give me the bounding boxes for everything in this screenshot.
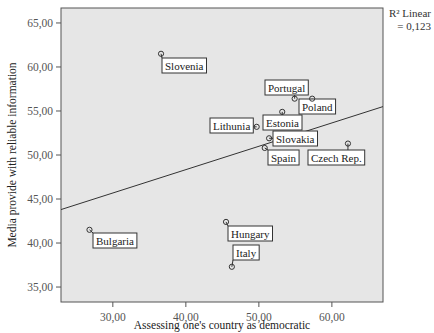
point-label: Poland (302, 101, 333, 113)
y-tick-label: 40,00 (27, 237, 53, 250)
point-label: Portugal (268, 82, 305, 94)
y-tick-label: 60,00 (27, 61, 53, 74)
y-tick-label: 65,00 (27, 17, 53, 30)
x-axis-label: Assessing one's country as democratic (134, 319, 310, 332)
y-tick-label: 35,00 (27, 281, 53, 294)
point-label: Spain (271, 152, 297, 164)
y-axis-label: Media provide with reliable information (6, 62, 19, 247)
data-point-poland: Poland (299, 96, 336, 114)
point-label: Czech Rep. (311, 152, 362, 164)
point-label: Hungary (231, 228, 270, 240)
r-squared-value: = 0,123 (397, 20, 431, 32)
point-label: Italy (236, 247, 257, 259)
x-tick-label: 60,00 (319, 311, 345, 324)
y-tick-label: 50,00 (27, 149, 53, 162)
y-axis: 35,0040,0045,0050,0055,0060,0065,00 (27, 17, 61, 294)
y-tick-label: 55,00 (27, 105, 53, 118)
point-label: Lithunia (213, 120, 250, 132)
data-point-slovakia: Slovakia (266, 131, 317, 146)
point-label: Slovakia (276, 133, 315, 145)
point-label: Estonia (266, 117, 299, 129)
y-tick-label: 45,00 (27, 193, 53, 206)
data-point-lithunia: Lithunia (210, 118, 259, 133)
x-tick-label: 30,00 (100, 311, 126, 324)
point-label: Slovenia (165, 60, 204, 72)
point-label: Bulgaria (96, 235, 134, 247)
scatter-chart: 35,0040,0045,0050,0055,0060,0065,00 30,0… (0, 0, 434, 333)
r-squared-label: R² Linear (389, 7, 431, 19)
